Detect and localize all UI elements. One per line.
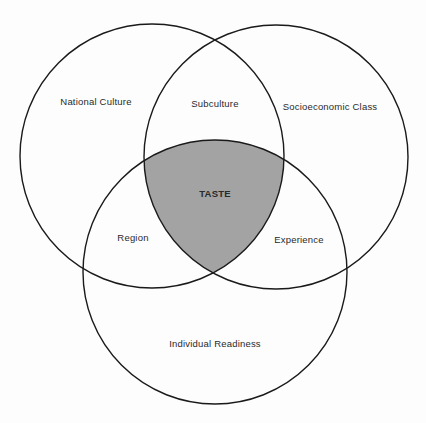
label-subculture: Subculture <box>191 98 238 109</box>
venn-diagram: National Culture Subculture Socioeconomi… <box>0 0 426 423</box>
label-individual-readiness: Individual Readiness <box>169 338 261 349</box>
label-national-culture: National Culture <box>60 96 131 107</box>
label-experience: Experience <box>274 234 324 245</box>
label-socioeconomic-class: Socioeconomic Class <box>283 101 378 112</box>
label-taste: TASTE <box>199 188 230 199</box>
label-region: Region <box>117 232 148 243</box>
